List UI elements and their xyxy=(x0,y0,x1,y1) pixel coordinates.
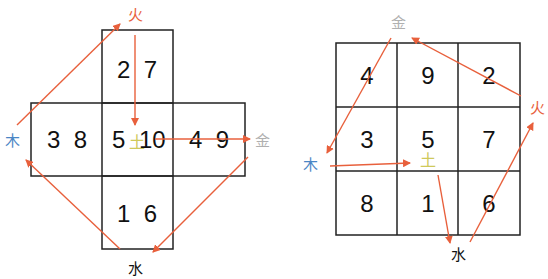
square-cell-0-1: 9 xyxy=(421,62,434,89)
square-cell-0-2: 2 xyxy=(482,62,495,89)
square-cell-2-1: 1 xyxy=(421,190,434,217)
square-cell-0-0: 4 xyxy=(360,62,373,89)
earth-label-right: 土 xyxy=(420,152,436,169)
he-tu-luo-shu-diagram: 2 7 3 8 5 土 10 4 9 1 6 火 木 金 水 4 9 2 3 5… xyxy=(0,0,548,279)
square-cell-1-1: 5 xyxy=(421,126,434,153)
cell-top: 2 7 xyxy=(117,56,157,83)
square-cell-1-2: 7 xyxy=(482,126,495,153)
square-cell-2-2: 6 xyxy=(482,190,495,217)
fire-label-left: 火 xyxy=(128,6,143,24)
square-cell-1-0: 3 xyxy=(360,126,373,153)
water-label-left: 水 xyxy=(128,260,143,278)
cell-bottom: 1 6 xyxy=(117,200,157,227)
cell-center-5: 5 xyxy=(112,126,125,153)
cell-left: 3 8 xyxy=(47,126,87,153)
wood-label-left: 木 xyxy=(5,132,20,150)
metal-label-right: 金 xyxy=(391,14,406,32)
water-label-right: 水 xyxy=(451,246,466,264)
metal-label-left: 金 xyxy=(255,132,270,150)
square-cell-2-0: 8 xyxy=(360,190,373,217)
fire-label-right: 火 xyxy=(530,99,545,117)
wood-label-right: 木 xyxy=(303,156,318,174)
